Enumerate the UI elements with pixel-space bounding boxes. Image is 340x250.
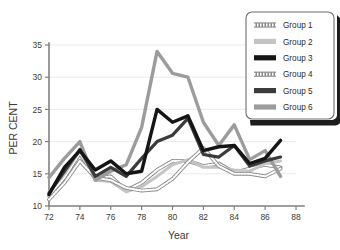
legend-label-2: Group 2 bbox=[283, 38, 313, 47]
x-tick-label: 74 bbox=[75, 212, 85, 222]
x-tick-label: 78 bbox=[137, 212, 147, 222]
legend-label-5: Group 5 bbox=[283, 87, 313, 96]
legend-label-1: Group 1 bbox=[283, 21, 313, 30]
chart-legend[interactable]: Group 1Group 2Group 3Group 4Group 5Group… bbox=[246, 12, 340, 126]
legend-label-6: Group 6 bbox=[283, 103, 313, 112]
x-tick-label: 86 bbox=[260, 212, 270, 222]
y-tick-label: 35 bbox=[33, 40, 43, 50]
chart-container: 101520253035 727476788082848688 PER CENT… bbox=[0, 0, 340, 250]
y-tick-label: 15 bbox=[33, 169, 43, 179]
x-axis-title: Year bbox=[168, 229, 190, 241]
y-axis-title: PER CENT bbox=[7, 101, 19, 155]
x-tick-label: 76 bbox=[106, 212, 116, 222]
x-tick-label: 82 bbox=[199, 212, 209, 222]
legend-label-3: Group 3 bbox=[283, 54, 313, 63]
line-chart: 101520253035 727476788082848688 PER CENT… bbox=[0, 0, 340, 250]
x-tick-label: 84 bbox=[230, 212, 240, 222]
y-tick-label: 20 bbox=[33, 137, 43, 147]
legend-label-4: Group 4 bbox=[283, 70, 313, 79]
x-tick-label: 88 bbox=[291, 212, 301, 222]
x-tick-label: 80 bbox=[168, 212, 178, 222]
y-tick-label: 30 bbox=[33, 72, 43, 82]
x-tick-label: 72 bbox=[44, 212, 54, 222]
y-tick-label: 10 bbox=[33, 201, 43, 211]
y-tick-label: 25 bbox=[33, 105, 43, 115]
